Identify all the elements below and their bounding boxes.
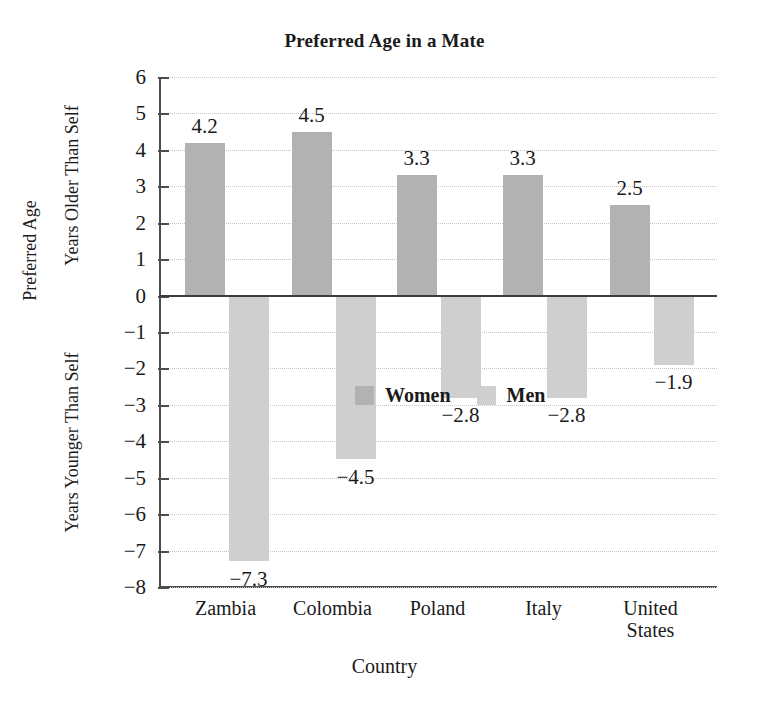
y-axis-tick-label: 5: [136, 103, 147, 124]
y-axis-tick: [158, 259, 169, 261]
x-axis-tick-label: United States: [581, 597, 721, 642]
bar-value-women: 2.5: [600, 178, 660, 199]
bar-men[interactable]: [547, 296, 587, 398]
y-axis-tick: [158, 551, 169, 553]
bar-women[interactable]: [503, 175, 543, 295]
y-axis-tick-label: −7: [124, 540, 146, 561]
y-axis-tick: [158, 223, 169, 225]
gridline: [159, 113, 717, 114]
y-axis-tick: [158, 478, 169, 480]
y-axis-tick-label: −2: [124, 358, 146, 379]
y-axis-tick: [158, 77, 169, 79]
bar-value-men: −1.9: [639, 372, 709, 393]
y-axis-tick: [158, 368, 169, 370]
bar-men[interactable]: [336, 296, 376, 460]
y-axis-tick-label: 0: [136, 285, 147, 306]
y-axis-upper-label: Years Older Than Self: [62, 81, 83, 291]
legend-swatch-women-icon: [355, 386, 374, 405]
y-axis-tick-label: 1: [136, 249, 147, 270]
bar-value-men: −4.5: [321, 467, 391, 488]
legend-label-men: Men: [507, 385, 546, 405]
y-axis-tick: [158, 332, 169, 334]
y-axis-tick: [158, 514, 169, 516]
bar-value-men: −2.8: [532, 405, 602, 426]
bar-value-women: 3.3: [387, 148, 447, 169]
y-axis-tick-label: 4: [136, 139, 147, 160]
gridline: [159, 77, 717, 78]
zero-baseline: [159, 295, 717, 297]
bar-women[interactable]: [292, 132, 332, 296]
bar-value-women: 3.3: [493, 148, 553, 169]
legend-label-women: Women: [385, 385, 451, 405]
y-axis-tick: [158, 587, 169, 589]
y-axis-tick-label: −4: [124, 431, 146, 452]
legend-swatch-men-icon: [477, 386, 496, 405]
page-title: Preferred Age in a Mate: [0, 30, 769, 52]
bar-women[interactable]: [185, 143, 225, 296]
bar-women[interactable]: [610, 205, 650, 296]
bar-men[interactable]: [441, 296, 481, 398]
y-axis-lower-label: Years Younger Than Self: [62, 318, 83, 568]
legend-item-women[interactable]: Women: [355, 385, 451, 405]
y-axis-tick-label: 6: [136, 67, 147, 88]
bar-value-men: −2.8: [426, 405, 496, 426]
y-axis-tick: [158, 441, 169, 443]
x-axis-title: Country: [0, 655, 769, 678]
y-axis-tick-label: 3: [136, 176, 147, 197]
bar-value-women: 4.2: [175, 116, 235, 137]
bar-men[interactable]: [654, 296, 694, 365]
legend-item-men[interactable]: Men: [477, 385, 546, 405]
bar-women[interactable]: [397, 175, 437, 295]
y-axis-tick: [158, 186, 169, 188]
y-axis-tick: [158, 405, 169, 407]
y-axis-title: Preferred Age: [20, 151, 41, 351]
y-axis-tick: [158, 150, 169, 152]
bar-value-women: 4.5: [282, 105, 342, 126]
y-axis-tick: [158, 113, 169, 115]
plot-area: 6543210−1−2−3−4−5−6−7−8 4.2−7.34.5−4.53.…: [159, 77, 717, 587]
y-axis-tick-label: 2: [136, 212, 147, 233]
y-axis-tick-label: −3: [124, 394, 146, 415]
legend: Women Men: [355, 385, 545, 405]
y-axis-tick-label: −8: [124, 577, 146, 598]
bar-men[interactable]: [229, 296, 269, 562]
y-axis-tick-label: −1: [124, 322, 146, 343]
y-axis-tick-label: −5: [124, 467, 146, 488]
y-axis-tick-label: −6: [124, 504, 146, 525]
bar-value-men: −7.3: [214, 569, 284, 590]
